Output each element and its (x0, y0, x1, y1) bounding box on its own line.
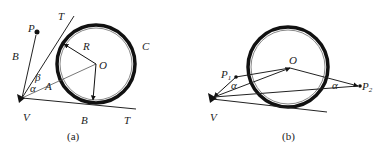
label-b-left: B (12, 50, 19, 62)
label-t-top: T (58, 10, 65, 22)
label-p: P (27, 22, 35, 34)
label-a: A (44, 80, 52, 92)
diagram-b: O P1 P2 α α V (b) (208, 27, 373, 143)
line-p1-o (236, 68, 290, 77)
label-b-bottom: B (81, 114, 88, 126)
label-o: O (99, 59, 107, 71)
label-p1: P1 (220, 68, 231, 82)
radius-down (93, 64, 96, 100)
caption-a: (a) (67, 130, 80, 143)
diagram-canvas: P T R C O B β α A V B T (a) O P1 P2 (0, 0, 382, 150)
vertex-v-icon-b (208, 93, 217, 103)
circle-b (248, 27, 328, 107)
label-p2: P2 (361, 80, 373, 94)
diagram-a: P T R C O B β α A V B T (a) (12, 10, 150, 143)
label-alpha-right: α (332, 79, 338, 91)
label-o-b: O (289, 54, 297, 66)
label-v: V (23, 111, 31, 123)
label-c: C (142, 40, 150, 52)
point-p (35, 30, 40, 35)
label-alpha-left: α (231, 79, 237, 91)
label-alpha: α (30, 82, 36, 94)
radius-r (64, 44, 96, 64)
label-t-bottom: T (124, 114, 131, 126)
label-v-b: V (210, 111, 218, 123)
caption-b: (b) (282, 130, 295, 143)
label-r: R (82, 40, 90, 52)
